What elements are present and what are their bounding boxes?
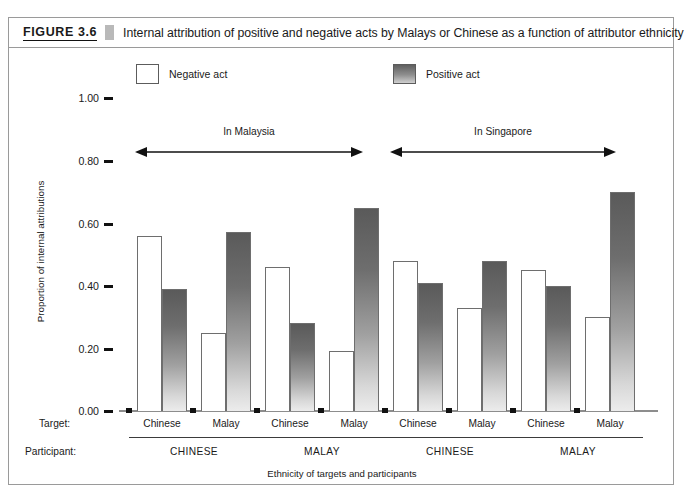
bar-negative-g3-malay [457,308,482,411]
bar-negative-g4-malay [585,317,610,411]
pair-tick-icon [574,408,580,413]
bar-positive-g4-chinese [546,286,571,411]
bar-positive-g3-malay [482,261,507,411]
target-label-g1-chinese: Chinese [129,418,195,429]
chart-plot-area: Negative act Positive act Proportion of … [9,18,675,486]
target-group-rule-4 [513,437,643,438]
x-axis-title: Ethnicity of targets and participants [9,468,675,479]
participant-label-g3: CHINESE [385,446,515,457]
participant-label-g4: MALAY [513,446,643,457]
participant-label-g2: MALAY [257,446,387,457]
bar-positive-g3-chinese [418,283,443,411]
target-row-key: Target: [39,418,70,429]
target-label-g4-chinese: Chinese [513,418,579,429]
bar-positive-g4-malay [610,192,635,411]
pair-tick-icon [318,408,324,413]
bar-positive-g1-malay [226,232,251,411]
pair-tick-icon [382,408,388,413]
target-group-rule-1 [129,437,259,438]
figure-container: FIGURE 3.6 Internal attribution of posit… [8,17,674,485]
bar-negative-g3-chinese [393,261,418,411]
bar-negative-g1-chinese [137,236,162,411]
pair-tick-icon [510,408,516,413]
target-label-g3-malay: Malay [449,418,515,429]
target-group-rule-2 [257,437,387,438]
bar-negative-g4-chinese [521,270,546,411]
bar-negative-g1-malay [201,333,226,411]
bar-negative-g2-malay [329,351,354,411]
target-label-g2-malay: Malay [321,418,387,429]
target-label-g3-chinese: Chinese [385,418,451,429]
pair-tick-icon [254,408,260,413]
participant-row-key: Participant: [25,446,76,457]
pair-tick-icon [126,408,132,413]
bar-positive-g2-chinese [290,323,315,411]
target-group-rule-3 [385,437,515,438]
target-label-g4-malay: Malay [577,418,643,429]
target-label-g1-malay: Malay [193,418,259,429]
bar-positive-g2-malay [354,208,379,411]
bar-positive-g1-chinese [162,289,187,411]
bar-negative-g2-chinese [265,267,290,411]
target-label-g2-chinese: Chinese [257,418,323,429]
pair-tick-icon [190,408,196,413]
participant-label-g1: CHINESE [129,446,259,457]
pair-tick-icon [446,408,452,413]
bars-layer [9,18,675,486]
